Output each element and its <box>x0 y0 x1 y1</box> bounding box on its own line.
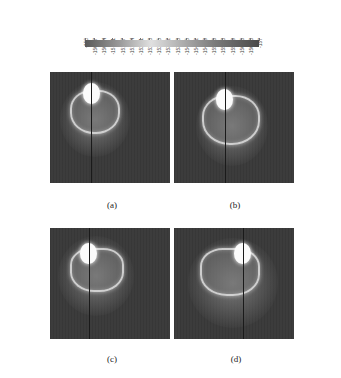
panel-a <box>50 72 170 183</box>
caption-b: (b) <box>215 200 255 210</box>
panel-c <box>50 228 170 339</box>
colorbar <box>85 40 259 47</box>
panel-d <box>174 228 294 339</box>
vertical-line <box>89 228 90 339</box>
panel-b <box>174 72 294 183</box>
caption-d: (d) <box>216 354 256 364</box>
vertical-line <box>243 228 244 339</box>
colorbar-labels: -150-150.37-150.74-151.11-151.47-151.84-… <box>82 2 262 38</box>
colorbar-tick <box>259 38 260 41</box>
caption-c: (c) <box>92 354 132 364</box>
caption-a: (a) <box>92 200 132 210</box>
contour-ring <box>200 248 260 296</box>
contour-ring <box>70 248 124 292</box>
vertical-line <box>91 72 92 183</box>
vertical-line <box>225 72 226 183</box>
